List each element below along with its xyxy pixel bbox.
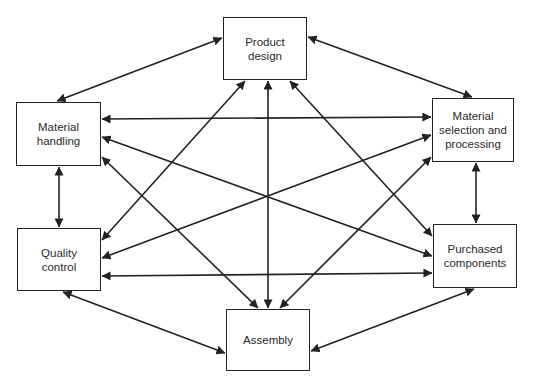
arrow-product-design-to-quality-control [102, 81, 245, 240]
arrow-quality-control-to-purchased-components [102, 273, 432, 276]
arrow-material-handling-to-material-selection [102, 117, 431, 119]
node-label-product-design: Product design [245, 35, 285, 63]
interaction-diagram: Product design Material handling Materia… [0, 0, 534, 383]
arrow-assembly-to-purchased-components [311, 289, 474, 351]
bidirectional-arrows [57, 37, 476, 353]
node-product-design: Product design [223, 17, 307, 80]
node-label-quality-control: Quality control [41, 246, 77, 274]
arrow-product-design-to-material-selection [308, 37, 472, 97]
arrow-product-design-to-purchased-components [290, 81, 432, 236]
node-label-assembly: Assembly [243, 333, 293, 347]
arrow-material-handling-to-assembly [102, 157, 258, 308]
node-label-material-selection: Material selection and processing [439, 109, 507, 151]
arrow-material-selection-to-assembly [280, 157, 431, 308]
arrow-material-handling-to-product-design [57, 38, 222, 101]
node-assembly: Assembly [226, 309, 310, 371]
arrow-material-handling-to-purchased-components [102, 137, 432, 256]
node-material-handling: Material handling [16, 102, 101, 166]
node-purchased-components: Purchased components [433, 224, 517, 288]
arrow-quality-control-to-assembly [63, 292, 225, 353]
node-material-selection-and-processing: Material selection and processing [432, 98, 514, 162]
node-label-purchased-components: Purchased components [444, 242, 507, 270]
node-label-material-handling: Material handling [37, 120, 80, 148]
arrow-material-selection-to-quality-control [102, 135, 431, 258]
node-quality-control: Quality control [17, 228, 101, 291]
